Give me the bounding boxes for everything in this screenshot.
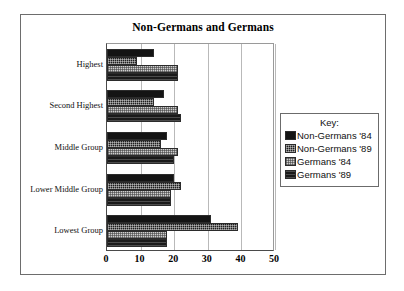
bar bbox=[107, 231, 167, 239]
legend-entry-label: Non-Germans '89 bbox=[297, 143, 372, 154]
gridline-40 bbox=[241, 44, 242, 250]
bar bbox=[107, 114, 181, 122]
x-tick-label: 20 bbox=[168, 253, 178, 264]
category-label: Lowest Group bbox=[54, 225, 103, 235]
bar bbox=[107, 215, 211, 223]
bar bbox=[107, 182, 181, 190]
category-label: Second Highest bbox=[49, 100, 103, 110]
legend-swatch bbox=[285, 144, 296, 153]
bar bbox=[107, 73, 178, 81]
legend-title: Key: bbox=[285, 117, 374, 128]
bar bbox=[107, 223, 238, 231]
legend-entry-label: Germans '84 bbox=[297, 156, 351, 167]
bar bbox=[107, 156, 174, 164]
bar bbox=[107, 49, 154, 57]
category-label: Lower Middle Group bbox=[30, 184, 103, 194]
chart-screenshot: Non-Germans and Germans HighestSecond Hi… bbox=[0, 0, 404, 291]
legend-entry: Germans '89 bbox=[285, 168, 374, 181]
bar bbox=[107, 90, 164, 98]
chart-title: Non-Germans and Germans bbox=[21, 21, 385, 33]
bar bbox=[107, 57, 137, 65]
legend-entries: Non-Germans '84Non-Germans '89Germans '8… bbox=[285, 129, 374, 181]
plot-area bbox=[106, 43, 274, 251]
bar bbox=[107, 106, 178, 114]
bar bbox=[107, 190, 171, 198]
y-axis-category-labels: HighestSecond HighestMiddle GroupLower M… bbox=[21, 43, 103, 251]
bar bbox=[107, 65, 178, 73]
bar bbox=[107, 174, 174, 182]
legend-entry: Non-Germans '89 bbox=[285, 142, 374, 155]
x-tick-label: 30 bbox=[202, 253, 212, 264]
bar bbox=[107, 140, 161, 148]
bar bbox=[107, 198, 171, 206]
legend-swatch bbox=[285, 131, 296, 140]
category-label: Middle Group bbox=[55, 142, 103, 152]
legend-swatch bbox=[285, 170, 296, 179]
legend-entry: Germans '84 bbox=[285, 155, 374, 168]
x-tick-label: 0 bbox=[104, 253, 109, 264]
x-tick-label: 10 bbox=[135, 253, 145, 264]
x-tick-label: 50 bbox=[269, 253, 279, 264]
legend-entry: Non-Germans '84 bbox=[285, 129, 374, 142]
legend-box: Key: Non-Germans '84Non-Germans '89Germa… bbox=[280, 113, 379, 187]
bar bbox=[107, 98, 154, 106]
legend-entry-label: Germans '89 bbox=[297, 169, 351, 180]
gridline-50 bbox=[275, 44, 276, 250]
chart-frame: Non-Germans and Germans HighestSecond Hi… bbox=[20, 14, 386, 275]
bar bbox=[107, 239, 167, 247]
legend-swatch bbox=[285, 157, 296, 166]
x-axis-tick-labels: 01020304050 bbox=[106, 253, 274, 269]
category-label: Highest bbox=[77, 59, 103, 69]
bar bbox=[107, 148, 178, 156]
x-tick-label: 40 bbox=[235, 253, 245, 264]
bar bbox=[107, 132, 167, 140]
legend-entry-label: Non-Germans '84 bbox=[297, 130, 372, 141]
